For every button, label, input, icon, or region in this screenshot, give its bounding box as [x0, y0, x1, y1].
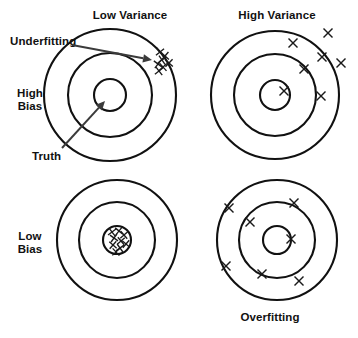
bias-variance-diagram: Low Variance High Variance High Bias Low…: [0, 0, 358, 338]
row-label-low-bias: Low Bias: [18, 230, 43, 255]
annotation-underfitting-label: Underfitting: [10, 35, 76, 47]
annotation-truth-label: Truth: [32, 150, 61, 162]
row-label-high-bias-line1: High: [17, 87, 43, 99]
footer-label-overfitting: Overfitting: [240, 311, 299, 323]
row-label-high-bias-line2: Bias: [18, 100, 43, 112]
column-header-low-variance: Low Variance: [93, 9, 168, 21]
row-label-low-bias-line1: Low: [18, 230, 41, 242]
column-header-high-variance: High Variance: [238, 9, 315, 21]
row-label-high-bias: High Bias: [17, 87, 43, 112]
row-label-low-bias-line2: Bias: [18, 243, 43, 255]
diagram-background: [0, 0, 358, 338]
